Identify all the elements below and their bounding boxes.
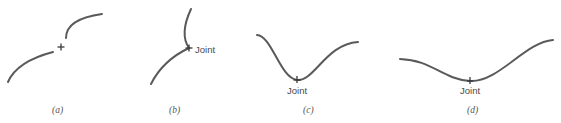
panel-a-left-segment	[8, 52, 53, 82]
caption-c: (c)	[303, 106, 314, 116]
continuity-diagram: (a) Joint (b) Joint (c) Joint (d)	[0, 0, 561, 123]
panel-b-curves	[151, 9, 193, 84]
panel-c-curves	[257, 35, 358, 83]
panel-b-upper-segment	[185, 9, 191, 48]
panel-b-lower-segment	[151, 48, 189, 84]
caption-a: (a)	[52, 106, 63, 116]
panel-d-curve	[400, 40, 553, 81]
panel-d-curves	[400, 40, 553, 84]
joint-label-b: Joint	[195, 45, 215, 55]
joint-label-d: Joint	[460, 86, 480, 96]
caption-d: (d)	[467, 106, 478, 116]
joint-marker-icon	[294, 76, 301, 83]
panel-a-curves	[8, 14, 102, 82]
joint-label-c: Joint	[287, 86, 307, 96]
panel-c-curve	[257, 35, 358, 80]
joint-marker-icon	[467, 77, 473, 84]
caption-b: (b)	[169, 106, 180, 116]
panel-a-right-segment	[66, 14, 102, 38]
joint-marker-icon	[58, 44, 65, 51]
